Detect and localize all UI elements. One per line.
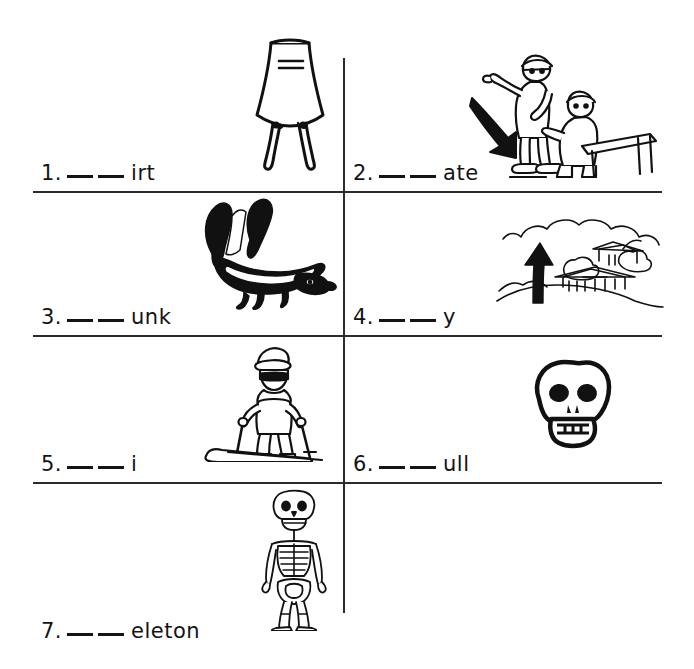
prompt-5: 5.i xyxy=(41,453,137,476)
item-number-6: 6. xyxy=(353,452,374,476)
blank-6a[interactable] xyxy=(379,466,405,469)
blank-1a[interactable] xyxy=(67,175,93,178)
skeleton-picture xyxy=(248,486,344,631)
blank-1b[interactable] xyxy=(98,175,124,178)
blank-7b[interactable] xyxy=(98,633,124,636)
prompt-1: 1.irt xyxy=(41,162,155,185)
word-ending-6: ull xyxy=(443,452,469,476)
skating-picture xyxy=(460,38,660,178)
blank-2a[interactable] xyxy=(379,175,405,178)
prompt-4: 4.y xyxy=(353,306,456,329)
item-number-1: 1. xyxy=(41,161,62,185)
blank-4a[interactable] xyxy=(379,319,405,322)
worksheet-cell-1: 1.irt xyxy=(33,30,343,191)
blank-5b[interactable] xyxy=(98,466,124,469)
blank-2b[interactable] xyxy=(410,175,436,178)
worksheet-cell-empty xyxy=(345,484,662,649)
blank-3a[interactable] xyxy=(67,319,93,322)
skull-picture xyxy=(515,355,625,451)
item-number-7: 7. xyxy=(41,619,62,643)
word-ending-2: ate xyxy=(443,161,479,185)
skunk-picture xyxy=(188,196,338,316)
word-ending-5: i xyxy=(131,452,137,476)
word-ending-1: irt xyxy=(131,161,155,185)
sky-picture xyxy=(495,215,665,310)
skirt-picture xyxy=(241,35,337,175)
prompt-2: 2.ate xyxy=(353,162,479,185)
worksheet-page: 1.irt xyxy=(0,0,694,669)
ski-picture xyxy=(198,342,348,462)
blank-3b[interactable] xyxy=(98,319,124,322)
prompt-3: 3.unk xyxy=(41,306,171,329)
word-ending-7: eleton xyxy=(131,619,200,643)
item-number-3: 3. xyxy=(41,305,62,329)
word-ending-3: unk xyxy=(131,305,171,329)
item-number-2: 2. xyxy=(353,161,374,185)
worksheet-cell-5: 5.i xyxy=(33,337,343,482)
worksheet-cell-7: 7.eleton xyxy=(33,484,343,649)
blank-5a[interactable] xyxy=(67,466,93,469)
worksheet-cell-4: 4.y xyxy=(345,193,662,335)
prompt-6: 6.ull xyxy=(353,453,470,476)
item-number-5: 5. xyxy=(41,452,62,476)
blank-7a[interactable] xyxy=(67,633,93,636)
prompt-7: 7.eleton xyxy=(41,620,200,643)
worksheet-cell-3: 3.unk xyxy=(33,193,343,335)
worksheet-cell-2: 2.ate xyxy=(345,30,662,191)
word-ending-4: y xyxy=(443,305,456,329)
blank-6b[interactable] xyxy=(410,466,436,469)
blank-4b[interactable] xyxy=(410,319,436,322)
item-number-4: 4. xyxy=(353,305,374,329)
worksheet-cell-6: 6.ull xyxy=(345,337,662,482)
